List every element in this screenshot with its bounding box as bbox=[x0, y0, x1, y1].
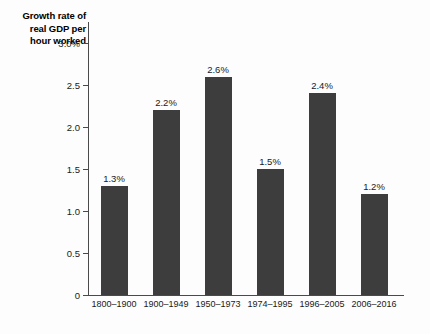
x-axis-line bbox=[88, 295, 404, 296]
x-axis-category-label: 1900–1949 bbox=[143, 299, 188, 309]
bar: 2.2% bbox=[153, 110, 180, 295]
x-axis-category-label: 1974–1995 bbox=[247, 299, 292, 309]
bar-value-label: 1.2% bbox=[363, 181, 385, 192]
bar-value-label: 2.4% bbox=[311, 80, 333, 91]
y-axis-tick-label: 2.0 bbox=[67, 122, 80, 133]
bar-value-label: 2.6% bbox=[207, 64, 229, 75]
bar: 1.5% bbox=[257, 169, 284, 295]
y-axis-tick-mark bbox=[83, 211, 88, 212]
plot-area: 00.51.01.52.02.53.0% 1.3%2.2%2.6%1.5%2.4… bbox=[88, 22, 404, 296]
bar: 2.6% bbox=[205, 77, 232, 295]
chart-container: Growth rate of real GDP per hour worked … bbox=[0, 0, 430, 334]
x-axis-category-label: 2006–2016 bbox=[351, 299, 396, 309]
bar: 1.3% bbox=[101, 186, 128, 295]
y-axis-tick-mark bbox=[83, 85, 88, 86]
y-axis-tick-label: 1.5 bbox=[67, 164, 80, 175]
y-axis-tick-mark bbox=[83, 43, 88, 44]
bar-value-label: 1.5% bbox=[259, 156, 281, 167]
y-axis-line bbox=[88, 22, 89, 296]
y-axis-tick-mark bbox=[83, 127, 88, 128]
x-axis-category-label: 1996–2005 bbox=[299, 299, 344, 309]
chart-title-line-1: Growth rate of bbox=[8, 10, 86, 23]
y-axis-tick-label: 0 bbox=[75, 290, 80, 301]
x-axis-category-label: 1800–1900 bbox=[91, 299, 136, 309]
y-axis-tick-mark bbox=[83, 295, 88, 296]
y-axis-tick-label: 0.5 bbox=[67, 248, 80, 259]
y-axis-tick-mark bbox=[83, 169, 88, 170]
bar-value-label: 1.3% bbox=[103, 173, 125, 184]
y-axis-tick-label: 3.0% bbox=[58, 38, 80, 49]
bar-value-label: 2.2% bbox=[155, 97, 177, 108]
chart-title-line-2: real GDP per bbox=[8, 23, 86, 36]
x-axis-category-label: 1950–1973 bbox=[195, 299, 240, 309]
y-axis-tick-label: 2.5 bbox=[67, 80, 80, 91]
bar: 1.2% bbox=[361, 194, 388, 295]
y-axis-tick-mark bbox=[83, 253, 88, 254]
bar: 2.4% bbox=[309, 93, 336, 295]
y-axis-tick-label: 1.0 bbox=[67, 206, 80, 217]
